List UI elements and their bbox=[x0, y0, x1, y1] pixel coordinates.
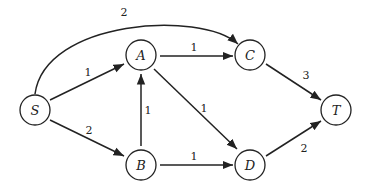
edge-label-c-t: 3 bbox=[303, 69, 310, 82]
svg-text:T: T bbox=[332, 103, 342, 118]
edge-label-d-t: 2 bbox=[301, 142, 308, 155]
svg-text:D: D bbox=[244, 158, 256, 173]
node-t: T bbox=[321, 95, 351, 125]
edge-d-t bbox=[266, 121, 321, 156]
edge-c-t bbox=[266, 64, 321, 100]
node-c: C bbox=[235, 40, 265, 70]
edge-a-d bbox=[154, 69, 237, 149]
svg-text:B: B bbox=[135, 158, 146, 173]
edge-label-s-a: 1 bbox=[85, 66, 92, 79]
edge-label-b-a: 1 bbox=[145, 104, 152, 117]
edge-label-b-d: 1 bbox=[191, 150, 198, 163]
svg-text:C: C bbox=[245, 48, 255, 63]
edge-label-a-c: 1 bbox=[191, 41, 198, 54]
edge-label-s-c: 2 bbox=[121, 6, 128, 19]
weighted-directed-graph: 2 1 2 1 1 1 1 3 2 S A B C D T bbox=[0, 0, 385, 191]
svg-text:A: A bbox=[135, 48, 145, 63]
edge-label-s-b: 2 bbox=[86, 124, 93, 137]
edge-label-a-d: 1 bbox=[201, 102, 208, 115]
node-d: D bbox=[235, 150, 265, 180]
node-a: A bbox=[126, 40, 156, 70]
node-s: S bbox=[20, 95, 50, 125]
node-b: B bbox=[126, 150, 156, 180]
svg-text:S: S bbox=[31, 103, 40, 118]
